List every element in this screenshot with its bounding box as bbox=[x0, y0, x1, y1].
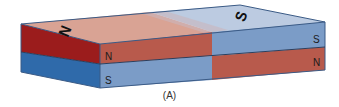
front-upper-left-label: N bbox=[105, 51, 112, 62]
front-upper-right-label: S bbox=[313, 34, 320, 45]
front-lower-right-label: N bbox=[313, 57, 320, 68]
figure-caption: (A) bbox=[0, 90, 339, 101]
caption-text: (A) bbox=[163, 90, 176, 101]
front-lower-left-label: S bbox=[105, 75, 112, 86]
